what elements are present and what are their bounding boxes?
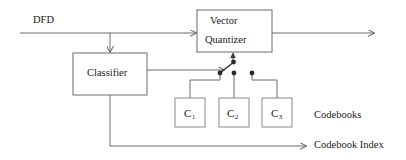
switch-pivot-dot — [231, 60, 236, 65]
switch-contact-dot-2 — [232, 71, 237, 76]
contact3-to-codebook3-line — [252, 73, 277, 98]
codebooks-group-label: Codebooks — [314, 110, 361, 121]
contact1-to-codebook1-line — [190, 73, 220, 98]
switch-contact-dot-3 — [250, 71, 255, 76]
codebook-label-1: C1 — [184, 108, 195, 119]
block-diagram-figure: DFD Vector Quantizer Classifier C1 C2 C3… — [0, 0, 406, 160]
codebook-label-2: C2 — [227, 108, 238, 119]
dfd-input-label: DFD — [33, 15, 54, 26]
codebook-label-2-subscript: 2 — [235, 113, 239, 121]
vector-quantizer-label-line2: Quantizer — [205, 35, 246, 46]
codebook-label-1-subscript: 1 — [192, 113, 196, 121]
codebook-label-1-base: C — [184, 107, 191, 119]
codebook-label-3: C3 — [271, 108, 282, 119]
vector-quantizer-label-line1: Vector — [210, 16, 237, 27]
classifier-label: Classifier — [87, 68, 127, 79]
codebook-index-label: Codebook Index — [314, 140, 384, 151]
codebook-label-3-base: C — [271, 107, 278, 119]
switch-contact-dot-1 — [218, 71, 223, 76]
codebook-label-2-base: C — [227, 107, 234, 119]
diagram-canvas — [0, 0, 406, 160]
codebook-label-3-subscript: 3 — [279, 113, 283, 121]
